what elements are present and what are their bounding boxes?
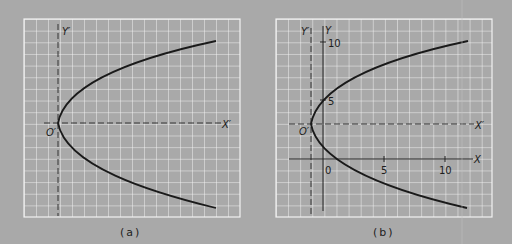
label-x-axis-b: X	[473, 154, 482, 165]
label-origin-prime-b: O′	[299, 126, 310, 137]
y-tick-label-5: 5	[328, 96, 334, 107]
panel-a: Y′ X′ O′	[24, 19, 240, 217]
label-x-prime-b: X′	[474, 120, 485, 131]
label-origin-prime-a: O′	[46, 127, 57, 138]
label-y-prime-a: Y′	[62, 26, 71, 37]
caption-a: (a)	[120, 226, 141, 239]
caption-b: (b)	[373, 226, 395, 239]
x-tick-label-10: 10	[439, 165, 452, 176]
y-tick-label-10: 10	[328, 38, 341, 49]
x-tick-label-5: 5	[381, 165, 387, 176]
panel-b: Y′ Y X′ X O′ 10 5 0 5 10	[276, 19, 492, 217]
label-x-prime-a: X′	[221, 119, 232, 130]
x-tick-label-0: 0	[325, 165, 331, 176]
parabola-figure: Y′ X′ O′ Y′ Y X′ X O′ 10 5 0 5 10	[0, 0, 515, 251]
label-y-axis-b: Y	[325, 25, 332, 36]
grid-a	[24, 19, 240, 217]
grid-b	[276, 19, 492, 217]
label-y-prime-b: Y′	[301, 26, 310, 37]
